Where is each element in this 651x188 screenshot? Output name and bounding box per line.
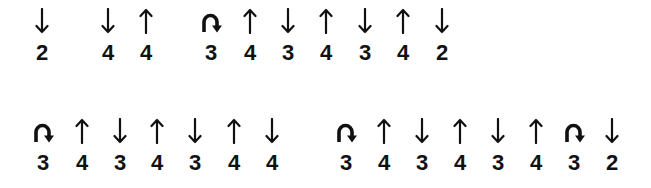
- symbol-cell: 4: [140, 116, 174, 176]
- symbol-cell: 4: [91, 6, 125, 66]
- symbol-cell: 3: [194, 6, 228, 66]
- symbol-cell: 3: [271, 6, 305, 66]
- count-value: 4: [217, 150, 251, 176]
- arrow-down-icon: [255, 116, 289, 144]
- count-value: 3: [557, 150, 591, 176]
- u-turn-icon: [26, 116, 60, 144]
- symbol-cell: 3: [481, 116, 515, 176]
- symbol-cell: 2: [425, 6, 459, 66]
- arrow-down-icon: [91, 6, 125, 34]
- symbol-cell: 3: [348, 6, 382, 66]
- arrow-up-icon: [233, 6, 267, 34]
- symbol-cell: 3: [405, 116, 439, 176]
- count-value: 4: [233, 40, 267, 66]
- count-value: 4: [65, 150, 99, 176]
- symbol-cell: 3: [329, 116, 363, 176]
- symbol-cell: 4: [255, 116, 289, 176]
- arrow-down-icon: [103, 116, 137, 144]
- count-value: 4: [386, 40, 420, 66]
- arrow-down-icon: [405, 116, 439, 144]
- arrow-down-icon: [178, 116, 212, 144]
- arrow-up-icon: [386, 6, 420, 34]
- symbol-cell: 4: [367, 116, 401, 176]
- arrow-up-icon: [140, 116, 174, 144]
- count-value: 3: [194, 40, 228, 66]
- arrow-down-icon: [425, 6, 459, 34]
- symbol-cell: 4: [217, 116, 251, 176]
- symbol-cell: 3: [178, 116, 212, 176]
- count-value: 3: [271, 40, 305, 66]
- symbol-cell: 2: [25, 6, 59, 66]
- count-value: 4: [129, 40, 163, 66]
- arrow-up-icon: [129, 6, 163, 34]
- count-value: 3: [405, 150, 439, 176]
- symbol-cell: 4: [129, 6, 163, 66]
- count-value: 3: [329, 150, 363, 176]
- symbol-cell: 3: [26, 116, 60, 176]
- arrow-up-icon: [367, 116, 401, 144]
- count-value: 4: [443, 150, 477, 176]
- u-turn-icon: [329, 116, 363, 144]
- count-value: 4: [140, 150, 174, 176]
- arrow-up-icon: [309, 6, 343, 34]
- symbol-cell: 4: [233, 6, 267, 66]
- arrow-up-icon: [217, 116, 251, 144]
- arrow-down-icon: [348, 6, 382, 34]
- arrow-down-icon: [481, 116, 515, 144]
- symbol-cell: 3: [103, 116, 137, 176]
- count-value: 4: [367, 150, 401, 176]
- count-value: 2: [595, 150, 629, 176]
- symbol-cell: 4: [519, 116, 553, 176]
- arrow-up-icon: [443, 116, 477, 144]
- count-value: 4: [519, 150, 553, 176]
- symbol-cell: 4: [443, 116, 477, 176]
- count-value: 3: [103, 150, 137, 176]
- count-value: 3: [481, 150, 515, 176]
- symbol-cell: 2: [595, 116, 629, 176]
- count-value: 3: [348, 40, 382, 66]
- u-turn-icon: [557, 116, 591, 144]
- symbol-cell: 4: [309, 6, 343, 66]
- count-value: 2: [25, 40, 59, 66]
- count-value: 3: [26, 150, 60, 176]
- arrow-up-icon: [65, 116, 99, 144]
- count-value: 4: [91, 40, 125, 66]
- u-turn-icon: [194, 6, 228, 34]
- count-value: 4: [309, 40, 343, 66]
- count-value: 2: [425, 40, 459, 66]
- symbol-cell: 4: [386, 6, 420, 66]
- count-value: 3: [178, 150, 212, 176]
- arrow-down-icon: [271, 6, 305, 34]
- symbol-cell: 4: [65, 116, 99, 176]
- symbol-cell: 3: [557, 116, 591, 176]
- arrow-down-icon: [595, 116, 629, 144]
- arrow-down-icon: [25, 6, 59, 34]
- count-value: 4: [255, 150, 289, 176]
- arrow-up-icon: [519, 116, 553, 144]
